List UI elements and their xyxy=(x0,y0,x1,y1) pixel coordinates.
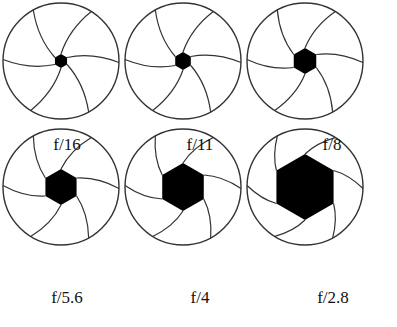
blade-edge xyxy=(3,59,55,66)
aperture-opening xyxy=(162,163,204,211)
blade-edge xyxy=(61,12,91,54)
f-stop-label: f/11 xyxy=(135,135,265,155)
blade-edge xyxy=(247,59,294,68)
blade-edge xyxy=(204,199,211,238)
blade-edge xyxy=(333,204,336,238)
blade-edge xyxy=(316,54,363,63)
aperture-opening xyxy=(175,52,191,70)
aperture-diagram: f/16f/11f/8f/5.6f/4f/2.8 xyxy=(0,0,397,252)
aperture-f-8 xyxy=(244,0,366,122)
blade-edge xyxy=(125,59,175,66)
blade-edge xyxy=(275,220,305,236)
blade-edge xyxy=(125,185,162,199)
f-stop-label: f/5.6 xyxy=(2,288,132,308)
blade-edge xyxy=(155,10,175,56)
blade-edge xyxy=(3,185,45,196)
blade-edge xyxy=(33,10,55,57)
aperture-opening xyxy=(45,169,76,205)
blade-edge xyxy=(334,171,363,189)
aperture-opening xyxy=(55,54,67,68)
f-stop-label: f/2.8 xyxy=(268,288,397,308)
blade-edge xyxy=(204,175,241,189)
blade-edge xyxy=(305,12,335,48)
aperture-f-16 xyxy=(0,0,122,122)
f-stop-label: f/16 xyxy=(2,135,132,155)
blade-edge xyxy=(77,196,89,238)
blade-edge xyxy=(77,178,119,189)
aperture-opening xyxy=(276,154,333,220)
blade-edge xyxy=(277,10,293,54)
f-stop-label: f/8 xyxy=(267,135,397,155)
blade-edge xyxy=(31,205,61,236)
blade-edge xyxy=(191,66,211,112)
blade-edge xyxy=(153,211,183,236)
blade-edge xyxy=(31,68,61,110)
blade-edge xyxy=(183,12,213,52)
f-stop-label: f/4 xyxy=(135,288,265,308)
aperture-opening xyxy=(294,48,317,74)
blade-edge xyxy=(247,185,276,203)
blade-edge xyxy=(316,68,332,112)
blade-edge xyxy=(153,70,183,110)
blade-edge xyxy=(275,74,305,110)
blade-edge xyxy=(191,55,241,62)
blade-edge xyxy=(67,65,89,112)
aperture-f-11 xyxy=(122,0,244,122)
blade-edge xyxy=(67,56,119,63)
